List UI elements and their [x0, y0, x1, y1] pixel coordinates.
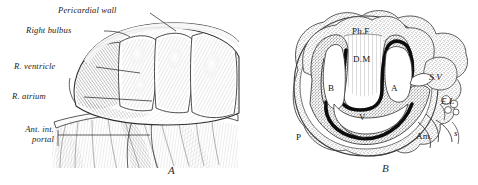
- heart-mass: [69, 22, 245, 128]
- diagram-label-e-l: E.L: [441, 96, 454, 106]
- diagram-label-ph-f: Ph.F: [352, 26, 370, 36]
- panel-b-diagram: Ph.F D.M B A S.V E.L V P Am. s B: [240, 0, 478, 185]
- diagram-label-p: P: [296, 132, 301, 142]
- diagram-label-s-v: S.V: [429, 72, 442, 82]
- diagram-label-b: B: [328, 83, 334, 93]
- label-right-bulbus: Right bulbus: [26, 26, 72, 36]
- panel-letter-b: B: [382, 162, 389, 174]
- diagram-label-a: A: [391, 83, 398, 93]
- diagram-label-s: s: [454, 128, 458, 138]
- panel-letter-a: A: [168, 164, 175, 176]
- label-ant-int-portal-line2: portal: [0, 135, 60, 145]
- label-ant-int-portal: Ant. int. portal: [0, 125, 60, 144]
- atrium-lumen: [385, 47, 412, 103]
- diagram-label-d-m: D.M: [353, 54, 370, 64]
- panel-a-drawing: Pericardial wall Right bulbus R. ventric…: [0, 0, 240, 185]
- diagram-label-am: Am.: [416, 131, 432, 141]
- bulbus-lumen: [323, 45, 345, 109]
- label-r-ventricle: R. ventricle: [14, 62, 55, 72]
- label-r-atrium: R. atrium: [12, 92, 46, 102]
- anatomical-figure: Pericardial wall Right bulbus R. ventric…: [0, 0, 478, 185]
- diagram-label-v: V: [359, 112, 366, 122]
- label-pericardial-wall: Pericardial wall: [58, 6, 117, 16]
- dorsal-mesocardium: [343, 34, 384, 96]
